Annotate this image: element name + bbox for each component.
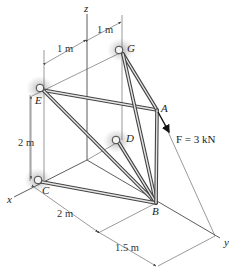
support-E-icon xyxy=(36,84,44,92)
dimension-2m-vertical: 2 m xyxy=(18,137,34,148)
joint-label-A: A xyxy=(160,102,168,114)
support-G-icon xyxy=(115,46,123,54)
force-arrow-icon xyxy=(158,112,169,132)
support-C-icon xyxy=(34,176,42,184)
y-axis-label: y xyxy=(223,236,229,248)
force-label: F = 3 kN xyxy=(176,133,216,145)
joint-label-C: C xyxy=(42,184,50,196)
x-axis-label: x xyxy=(6,193,12,205)
member-GB xyxy=(123,54,156,203)
dimension-1-5m: 1.5 m xyxy=(115,242,139,253)
member-AB xyxy=(156,110,157,203)
applied-load: F = 3 kN xyxy=(158,112,216,145)
ball-supports xyxy=(34,46,123,184)
z-axis-label: z xyxy=(83,2,89,14)
support-D-icon xyxy=(112,136,120,144)
joint-label-D: D xyxy=(125,132,134,144)
dimension-1m-right: 1 m xyxy=(97,24,113,35)
support-shading xyxy=(24,38,135,192)
dimension-2m-bottom: 2 m xyxy=(57,208,73,219)
joint-label-G: G xyxy=(127,42,135,54)
space-truss-diagram: z x y 1 m 1 m 2 m 2 m 1.5 m xyxy=(0,0,240,279)
joint-label-E: E xyxy=(34,94,42,106)
joint-label-B: B xyxy=(152,205,159,217)
dimension-1m-left: 1 m xyxy=(57,43,73,54)
truss-members xyxy=(42,54,157,203)
